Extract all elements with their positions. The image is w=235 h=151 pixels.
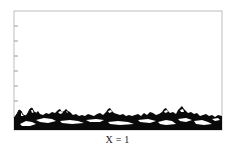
deposit-surface	[14, 106, 222, 130]
plot-area	[0, 0, 235, 151]
y-axis-ticks	[14, 26, 18, 101]
figure-caption-label: X = 1	[0, 134, 235, 145]
figure: X = 1	[0, 0, 235, 151]
